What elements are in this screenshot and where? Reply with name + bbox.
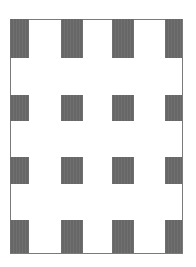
- grid-block-r3-c3: [112, 157, 134, 184]
- outer-frame: [10, 19, 183, 254]
- grid-block-r4-c2: [61, 220, 83, 253]
- grid-block-r4-c4: [165, 220, 182, 253]
- grid-block-r1-c1: [10, 19, 29, 58]
- grid-block-r1-c3: [112, 19, 134, 58]
- grid-block-r3-c1: [10, 157, 29, 184]
- grid-block-r3-c4: [165, 157, 182, 184]
- grid-block-r1-c4: [165, 19, 182, 58]
- grid-block-r3-c2: [61, 157, 83, 184]
- grid-block-r2-c4: [165, 95, 182, 121]
- grid-block-r2-c2: [61, 95, 83, 121]
- grid-block-r4-c1: [10, 220, 29, 253]
- grid-block-r2-c3: [112, 95, 134, 121]
- grid-block-r1-c2: [61, 19, 83, 58]
- grid-block-r2-c1: [10, 95, 29, 121]
- grid-block-r4-c3: [112, 220, 134, 253]
